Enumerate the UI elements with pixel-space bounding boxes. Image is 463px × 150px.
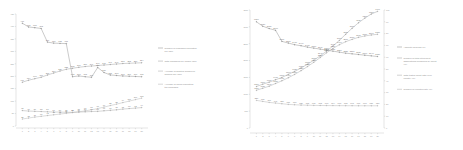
data-label: 1500	[280, 74, 285, 76]
data-point	[320, 105, 321, 106]
y-ticklabel-right: 90	[386, 21, 389, 23]
data-point	[104, 110, 105, 111]
data-point	[34, 78, 35, 79]
data-label: 1230	[254, 83, 259, 85]
legend-item[interactable]: Total tested count ratio overcountry (%)	[397, 74, 432, 79]
data-label: 70	[97, 105, 100, 107]
x-ticklabel: 6	[288, 135, 290, 137]
data-point	[269, 28, 270, 29]
data-label: 251	[121, 60, 125, 62]
data-point	[72, 76, 73, 77]
data-label: 239	[83, 63, 87, 65]
data-point	[371, 34, 372, 35]
y-ticklabel-left: 2500	[243, 43, 248, 45]
data-label: 254	[140, 59, 144, 61]
data-point	[371, 14, 372, 15]
y-ticklabel-left: 400	[11, 25, 15, 27]
y-ticklabel-right: 0	[386, 127, 388, 129]
data-label: 659	[376, 102, 380, 104]
legend-item[interactable]: Absolute analysis (%)	[397, 46, 426, 48]
data-point	[34, 111, 35, 112]
data-label: 241	[90, 63, 94, 65]
data-point	[345, 105, 346, 106]
legend-item[interactable]: Number of total cited inputassociations …	[397, 57, 437, 65]
data-label: 58	[40, 108, 43, 110]
data-point	[377, 34, 378, 35]
x-ticklabel: 1	[22, 130, 24, 132]
data-label: 106	[134, 96, 138, 98]
x-ticklabel: 11	[84, 130, 87, 132]
data-point	[135, 99, 136, 100]
x-ticklabel: 18	[128, 130, 131, 132]
legend-label: Number of total cited input	[404, 57, 431, 59]
data-label: 3460	[375, 8, 380, 10]
data-point	[78, 67, 79, 68]
data-label: 337	[46, 39, 50, 41]
y-ticklabel-right: 20	[386, 103, 389, 105]
legend-item[interactable]: Number of packages requestedper user	[158, 47, 197, 52]
data-point	[281, 80, 282, 81]
data-label: 1320	[273, 80, 278, 82]
data-point	[122, 76, 123, 77]
data-point	[281, 41, 282, 42]
data-point	[41, 116, 42, 117]
data-label: 661	[350, 102, 354, 104]
x-ticklabel: 5	[47, 130, 49, 132]
y-ticklabel-left: 100	[11, 100, 15, 102]
data-label: 213	[52, 70, 56, 72]
left-chart-panel: 4504003503002502001501005001234567891011…	[0, 0, 232, 150]
data-point	[41, 77, 42, 78]
data-label: 48	[59, 111, 62, 113]
x-ticklabel: 13	[97, 130, 100, 132]
figure-root: 4504003503002502001501005001234567891011…	[0, 0, 463, 150]
data-label: 3380	[369, 11, 374, 13]
data-point	[371, 55, 372, 56]
data-label: 232	[71, 65, 75, 67]
x-ticklabel: 17	[122, 130, 125, 132]
legend-item[interactable]: Average of granted allowed orallowed any…	[158, 70, 195, 75]
data-point	[66, 113, 67, 114]
y-ticklabel-left: 3000	[243, 26, 248, 28]
data-label: 249	[115, 61, 119, 63]
x-ticklabel: 12	[325, 135, 328, 137]
y-ticklabel-left: 0	[13, 125, 15, 127]
data-point	[122, 109, 123, 110]
legend-item[interactable]: Number of reported rate (%)	[397, 88, 432, 90]
data-label: 675	[306, 102, 310, 104]
data-point	[66, 112, 67, 113]
y-ticklabel-left: 1500	[243, 76, 248, 78]
x-ticklabel: 20	[376, 135, 379, 137]
data-label: 198	[71, 73, 75, 75]
data-point	[307, 66, 308, 67]
data-label: 2760	[369, 32, 374, 34]
y-ticklabel-left: 250	[11, 63, 15, 65]
x-ticklabel: 16	[115, 130, 118, 132]
legend-label: associations measured by count	[404, 60, 437, 62]
data-label: 39	[40, 113, 43, 115]
data-point	[60, 114, 61, 115]
data-point	[129, 108, 130, 109]
legend-item[interactable]: Total packages per unique user	[158, 60, 197, 62]
data-point	[110, 105, 111, 106]
data-label: 200	[127, 73, 131, 75]
data-point	[53, 114, 54, 115]
legend-item[interactable]: Average of users requestingthe packages	[158, 83, 194, 88]
legend-label: Absolute analysis (%)	[404, 46, 426, 48]
data-label: 88	[115, 101, 118, 103]
data-label: 1400	[280, 77, 285, 79]
data-point	[288, 77, 289, 78]
data-label: 221	[58, 68, 62, 70]
data-label: 740	[274, 100, 278, 102]
data-point	[28, 118, 29, 119]
data-label: 2780	[375, 31, 380, 33]
data-point	[294, 74, 295, 75]
data-point	[116, 104, 117, 105]
data-point	[85, 111, 86, 112]
data-label: 205	[46, 72, 50, 74]
data-point	[110, 64, 111, 65]
y-ticklabel-right: 40	[386, 80, 389, 82]
data-label: 392	[39, 25, 43, 27]
x-ticklabel: 11	[319, 135, 322, 137]
data-point	[262, 26, 263, 27]
data-point	[41, 28, 42, 29]
